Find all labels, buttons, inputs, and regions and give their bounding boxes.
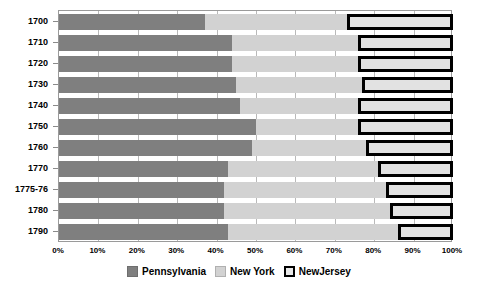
bar-segment-newjersey[interactable]: [358, 119, 453, 135]
bar-segment-new-york[interactable]: [256, 119, 358, 135]
bar-row: [59, 119, 451, 135]
y-axis-label: 1720: [28, 58, 48, 68]
bar-row: [59, 14, 451, 30]
bar-row: [59, 224, 451, 240]
bar-segment-new-york[interactable]: [232, 56, 358, 72]
x-axis-label: 70%: [326, 246, 342, 255]
legend-swatch-icon: [284, 266, 295, 277]
x-axis-label: 10%: [89, 246, 105, 255]
chart-legend: PennsylvaniaNew YorkNewJersey: [0, 266, 478, 277]
bar-segment-pennsylvania[interactable]: [59, 35, 232, 51]
bar-segment-pennsylvania[interactable]: [59, 77, 236, 93]
legend-swatch-icon: [127, 266, 138, 277]
y-axis: 170017101720173017401750176017701775-761…: [0, 10, 52, 242]
x-axis-label: 40%: [208, 246, 224, 255]
legend-label: NewJersey: [299, 266, 351, 277]
bar-segment-pennsylvania[interactable]: [59, 14, 205, 30]
x-axis-label: 50%: [247, 246, 263, 255]
bar-segment-newjersey[interactable]: [347, 14, 453, 30]
bar-segment-newjersey[interactable]: [358, 98, 453, 114]
bar-rows: [59, 11, 451, 241]
x-axis-label: 80%: [365, 246, 381, 255]
bar-segment-newjersey[interactable]: [378, 161, 453, 177]
bar-row: [59, 182, 451, 198]
legend-label: Pennsylvania: [142, 266, 206, 277]
y-axis-label: 1750: [28, 121, 48, 131]
x-axis-label: 0%: [52, 246, 64, 255]
y-axis-label: 1710: [28, 37, 48, 47]
bar-segment-new-york[interactable]: [252, 140, 366, 156]
bar-segment-new-york[interactable]: [205, 14, 347, 30]
bar-segment-newjersey[interactable]: [358, 35, 453, 51]
bar-row: [59, 161, 451, 177]
bar-segment-pennsylvania[interactable]: [59, 98, 240, 114]
x-axis-label: 100%: [442, 246, 462, 255]
x-axis: 0%10%20%30%40%50%60%70%80%90%100%: [58, 246, 452, 260]
plot-area: [58, 10, 452, 242]
chart-container: 170017101720173017401750176017701775-761…: [0, 0, 478, 295]
bar-row: [59, 35, 451, 51]
bar-segment-pennsylvania[interactable]: [59, 182, 224, 198]
bar-segment-newjersey[interactable]: [366, 140, 453, 156]
bar-segment-pennsylvania[interactable]: [59, 203, 224, 219]
legend-item-newjersey[interactable]: NewJersey: [284, 266, 351, 277]
bar-segment-pennsylvania[interactable]: [59, 224, 228, 240]
x-axis-label: 90%: [405, 246, 421, 255]
y-axis-label: 1775-76: [15, 184, 48, 194]
legend-swatch-icon: [215, 266, 226, 277]
bar-segment-new-york[interactable]: [232, 35, 358, 51]
x-axis-label: 20%: [129, 246, 145, 255]
bar-segment-newjersey[interactable]: [386, 182, 453, 198]
bar-segment-new-york[interactable]: [236, 77, 362, 93]
bar-segment-pennsylvania[interactable]: [59, 56, 232, 72]
bar-segment-new-york[interactable]: [224, 203, 389, 219]
bar-segment-new-york[interactable]: [228, 224, 397, 240]
bar-row: [59, 203, 451, 219]
x-axis-label: 60%: [286, 246, 302, 255]
y-axis-label: 1770: [28, 163, 48, 173]
legend-item-new-york[interactable]: New York: [215, 266, 275, 277]
bar-segment-newjersey[interactable]: [398, 224, 453, 240]
y-axis-label: 1760: [28, 142, 48, 152]
bar-segment-newjersey[interactable]: [358, 56, 453, 72]
bar-row: [59, 98, 451, 114]
bar-row: [59, 77, 451, 93]
bar-segment-new-york[interactable]: [240, 98, 358, 114]
bar-segment-new-york[interactable]: [228, 161, 378, 177]
bar-segment-new-york[interactable]: [224, 182, 386, 198]
bar-row: [59, 56, 451, 72]
y-axis-label: 1780: [28, 205, 48, 215]
y-axis-label: 1740: [28, 100, 48, 110]
y-axis-label: 1730: [28, 79, 48, 89]
x-axis-label: 30%: [168, 246, 184, 255]
y-axis-label: 1700: [28, 16, 48, 26]
legend-label: New York: [230, 266, 275, 277]
bar-segment-pennsylvania[interactable]: [59, 161, 228, 177]
bar-segment-newjersey[interactable]: [390, 203, 453, 219]
y-axis-label: 1790: [28, 226, 48, 236]
bar-segment-pennsylvania[interactable]: [59, 119, 256, 135]
bar-segment-pennsylvania[interactable]: [59, 140, 252, 156]
bar-segment-newjersey[interactable]: [362, 77, 453, 93]
bar-row: [59, 140, 451, 156]
legend-item-pennsylvania[interactable]: Pennsylvania: [127, 266, 206, 277]
